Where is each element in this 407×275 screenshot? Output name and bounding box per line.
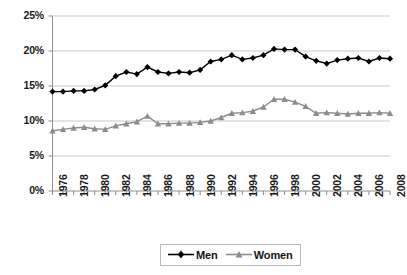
data-point-marker xyxy=(313,58,319,64)
legend-marker-diamond-icon xyxy=(168,249,194,260)
legend-item-men: Men xyxy=(168,249,218,261)
legend-label-men: Men xyxy=(196,249,218,261)
legend-label-women: Women xyxy=(254,249,293,261)
data-point-marker xyxy=(187,70,193,76)
data-point-marker xyxy=(155,69,161,75)
y-tick-label: 15% xyxy=(10,79,44,91)
x-tick-label: 2004 xyxy=(352,174,364,197)
data-point-marker xyxy=(239,56,245,62)
data-point-marker xyxy=(60,89,66,95)
legend-item-women: Women xyxy=(226,249,293,261)
x-tick-label: 1982 xyxy=(120,174,132,197)
x-tick-label: 2006 xyxy=(373,174,385,197)
y-tick-label: 5% xyxy=(10,149,44,161)
x-tick-label: 2000 xyxy=(310,174,322,197)
legend-marker-triangle-icon xyxy=(226,249,252,260)
axis-lines xyxy=(53,16,391,191)
data-point-marker xyxy=(366,58,372,64)
x-tick-label: 1978 xyxy=(78,174,90,197)
data-point-marker xyxy=(376,55,382,61)
x-tick-label: 2002 xyxy=(331,174,343,197)
y-tick-label: 0% xyxy=(10,184,44,196)
x-tick-label: 1986 xyxy=(162,174,174,197)
data-point-marker xyxy=(165,70,171,76)
y-tick-label: 20% xyxy=(10,44,44,56)
data-point-marker xyxy=(144,113,150,119)
data-point-marker xyxy=(334,57,340,63)
x-tick-label: 1994 xyxy=(247,174,259,197)
data-point-marker xyxy=(92,86,98,92)
data-series-layer xyxy=(49,46,393,134)
data-point-marker xyxy=(387,56,393,62)
data-point-marker xyxy=(250,55,256,61)
x-tick-label: 1990 xyxy=(205,174,217,197)
data-point-marker xyxy=(81,88,87,94)
data-point-marker xyxy=(70,88,76,94)
data-point-marker xyxy=(324,61,330,67)
data-point-marker xyxy=(281,47,287,53)
x-tick-label: 1996 xyxy=(268,174,280,197)
x-tick-label: 1992 xyxy=(226,174,238,197)
x-axis-ticks xyxy=(49,16,391,195)
data-point-marker xyxy=(123,69,129,75)
data-point-marker xyxy=(218,56,224,62)
x-tick-label: 1998 xyxy=(289,174,301,197)
y-tick-label: 25% xyxy=(10,9,44,21)
chart-legend: Men Women xyxy=(160,244,301,266)
data-point-marker xyxy=(229,52,235,58)
x-tick-label: 1980 xyxy=(99,174,111,197)
data-point-marker xyxy=(355,55,361,61)
data-point-marker xyxy=(260,52,266,58)
data-point-marker xyxy=(345,56,351,62)
data-point-marker xyxy=(176,69,182,75)
x-tick-label: 1988 xyxy=(184,174,196,197)
x-tick-label: 1976 xyxy=(57,174,69,197)
x-tick-label: 2008 xyxy=(395,174,407,197)
y-tick-label: 10% xyxy=(10,114,44,126)
x-tick-label: 1984 xyxy=(141,174,153,197)
data-point-marker xyxy=(49,89,55,95)
